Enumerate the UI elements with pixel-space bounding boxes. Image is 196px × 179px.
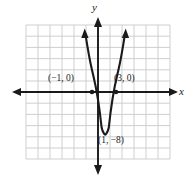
- y-axis-top-arrow: [94, 17, 102, 27]
- x-axis-right-arrow: [169, 88, 178, 96]
- x-axis-left-arrow: [12, 88, 21, 96]
- vertex-label: (1, −8): [98, 136, 124, 146]
- parabola-figure: y x (−1, 0) (3, 0) (1, −8): [0, 0, 196, 179]
- curve-right-arrow: [122, 29, 129, 39]
- curve-left-arrow: [81, 29, 88, 39]
- x-axis-label: x: [179, 86, 184, 97]
- coordinate-plane: [0, 0, 196, 179]
- point-root-left: [90, 90, 95, 95]
- y-axis-label: y: [92, 2, 97, 13]
- right-root-label: (3, 0): [114, 74, 135, 84]
- point-root-right: [114, 90, 119, 95]
- x-axis: [12, 88, 178, 96]
- y-axis-bottom-arrow: [94, 165, 102, 175]
- left-root-label: (−1, 0): [48, 74, 74, 84]
